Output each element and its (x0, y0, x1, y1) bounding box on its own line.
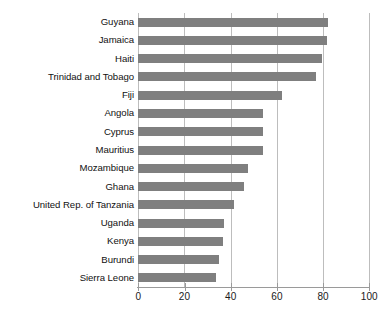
category-label: Sierra Leone (0, 272, 134, 283)
bar (138, 164, 247, 173)
bar-chart: GuyanaJamaicaHaitiTrinidad and TobagoFij… (0, 0, 390, 311)
x-tick-label: 20 (179, 291, 190, 302)
bar (138, 54, 321, 63)
x-tick-mark (369, 283, 370, 291)
bar (138, 200, 234, 209)
category-label: United Rep. of Tanzania (0, 199, 134, 210)
category-label: Mozambique (0, 162, 134, 173)
x-tick-mark (185, 283, 186, 291)
category-label: Cyprus (0, 126, 134, 137)
category-label: Uganda (0, 217, 134, 228)
category-label: Mauritius (0, 144, 134, 155)
gridline-100 (369, 13, 370, 287)
bar (138, 182, 244, 191)
category-label: Angola (0, 107, 134, 118)
x-tick-label: 0 (135, 291, 141, 302)
x-tick-mark (277, 283, 278, 291)
x-tick-mark (231, 283, 232, 291)
bar (138, 109, 263, 118)
category-label: Trinidad and Tobago (0, 71, 134, 82)
bar (138, 273, 216, 282)
bar (138, 18, 328, 27)
x-axis-line (137, 287, 370, 288)
x-tick-label: 100 (361, 291, 378, 302)
x-tick-mark (323, 283, 324, 291)
category-label: Burundi (0, 254, 134, 265)
bar (138, 146, 263, 155)
x-tick-label: 60 (271, 291, 282, 302)
category-label: Fiji (0, 89, 134, 100)
category-label: Ghana (0, 181, 134, 192)
x-tick-label: 80 (317, 291, 328, 302)
category-label: Haiti (0, 53, 134, 64)
x-tick-label: 40 (225, 291, 236, 302)
category-label: Guyana (0, 16, 134, 27)
bar (138, 255, 219, 264)
bar (138, 91, 282, 100)
category-label: Kenya (0, 235, 134, 246)
bar (138, 36, 326, 45)
bar (138, 237, 223, 246)
x-tick-mark (138, 283, 139, 291)
bars (138, 13, 369, 287)
category-axis-labels: GuyanaJamaicaHaitiTrinidad and TobagoFij… (0, 0, 134, 311)
bar (138, 72, 316, 81)
plot-area (138, 13, 369, 287)
bar (138, 219, 224, 228)
bar (138, 127, 263, 136)
category-label: Jamaica (0, 34, 134, 45)
